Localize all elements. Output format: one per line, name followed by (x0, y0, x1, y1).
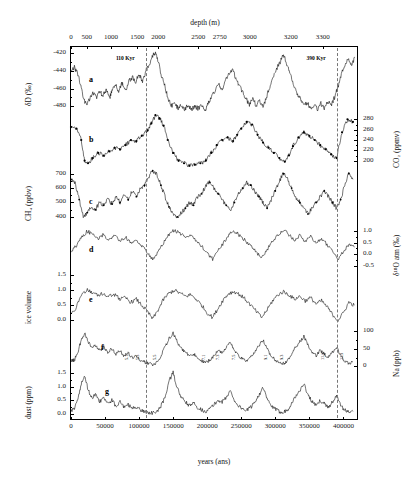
axis-tick (356, 358, 358, 359)
co2-data-point (319, 144, 321, 146)
axis-tick (354, 266, 358, 267)
axis-tick (70, 181, 72, 182)
axis-tick (356, 135, 358, 136)
y-tick-label: 0.0 (57, 316, 66, 323)
y-tick-label: 260 (363, 126, 374, 133)
series-line-d (71, 230, 354, 261)
ch4-data-point (307, 213, 309, 215)
axis-tick (354, 243, 358, 244)
ch4-data-point (258, 196, 260, 198)
axis-tick (70, 80, 72, 81)
ch4-data-point (315, 202, 317, 204)
ch4-data-point (217, 193, 219, 195)
depth-tick-label: 2500 (191, 34, 205, 41)
axis-tick (70, 195, 72, 196)
axis-tick (70, 407, 72, 408)
co2-data-point (308, 135, 310, 137)
axis-title-icevol: ice volume (24, 291, 33, 324)
ch4-data-point (193, 204, 195, 206)
ch4-data-point (299, 202, 301, 204)
axis-tick (275, 417, 276, 420)
year-tick-label: 0 (69, 423, 73, 430)
ch4-data-point (119, 202, 121, 204)
mis-stage-label: 7.1 (201, 355, 206, 360)
y-tick-label: 0.0 (57, 410, 66, 417)
co2-data-point (227, 136, 229, 138)
axis-title-CO2: CO₂ (ppmv) (392, 131, 401, 168)
year-tick-label: 300000 (265, 423, 286, 430)
co2-data-point (297, 136, 299, 138)
co2-data-point (262, 141, 264, 143)
mis-stage-label: 5.1 (124, 355, 129, 360)
axis-title-dust: dust (ppm) (24, 387, 33, 420)
depth-tick-label: 2750 (213, 34, 227, 41)
depth-tick-label: 1000 (104, 34, 118, 41)
ch4-data-point (152, 170, 154, 172)
axis-title-d18Oatm: δ¹⁸O atm (‰) (392, 235, 401, 276)
axis-tick (70, 313, 72, 314)
co2-data-point (172, 152, 174, 154)
y-tick-label: 240 (363, 136, 374, 143)
axis-tick (139, 417, 140, 420)
co2-data-point (75, 128, 77, 130)
co2-data-point (205, 160, 207, 162)
plot-frame (70, 46, 358, 420)
ch4-data-point (234, 202, 236, 204)
age-annotation-1: 110 Kyr (116, 55, 135, 61)
axis-tick (70, 53, 74, 54)
co2-data-point (256, 134, 258, 136)
y-tick-label: 200 (363, 157, 374, 164)
axis-tick (356, 156, 358, 157)
depth-tick-label: 3300 (316, 34, 330, 41)
year-tick-label: 100000 (129, 423, 150, 430)
ch4-data-point (103, 204, 105, 206)
co2-data-point (251, 123, 253, 125)
axis-tick (356, 145, 358, 146)
co2-data-point (267, 147, 269, 149)
mis-stage-label: 11.1 (320, 353, 325, 360)
co2-data-point (167, 139, 169, 141)
mis-stage-label: 7.3 (215, 355, 220, 360)
axis-tick (70, 89, 74, 90)
co2-data-point (236, 134, 238, 136)
co2-data-point (199, 162, 201, 164)
axis-tick (354, 366, 358, 367)
axis-tick (291, 46, 292, 49)
panel-letter-a: a (89, 75, 93, 84)
axis-tick (71, 46, 72, 49)
ch4-data-point (250, 184, 252, 186)
y-tick-label: -460 (53, 85, 66, 92)
y-tick-label: 1.0 (57, 383, 66, 390)
ch4-data-point (168, 206, 170, 208)
co2-data-point (135, 140, 137, 142)
y-tick-label: 400 (56, 213, 67, 220)
axis-tick (71, 417, 72, 420)
co2-data-point (163, 124, 165, 126)
co2-data-point (341, 131, 343, 133)
series-line-b (71, 115, 353, 167)
axis-title-dD: δD (‰) (24, 82, 33, 105)
co2-data-point (103, 154, 105, 156)
co2-data-point (97, 152, 99, 154)
mis-stage-label: 7.5 (231, 355, 236, 360)
series-line-c (71, 171, 353, 218)
axis-tick (70, 414, 74, 415)
co2-data-point (240, 128, 242, 130)
y-tick-label: 0.0 (363, 250, 372, 257)
co2-data-point (177, 160, 179, 162)
marker-line-1 (146, 48, 147, 418)
axis-tick (70, 210, 72, 211)
mis-stage-label: 11.3 (339, 353, 344, 360)
y-tick-label: 0.5 (57, 301, 66, 308)
co2-data-point (183, 162, 185, 164)
axis-tick (241, 417, 242, 420)
y-tick-label: 50 (363, 345, 370, 352)
co2-data-point (84, 160, 86, 162)
depth-tick-label: 2000 (151, 34, 165, 41)
axis-tick (105, 417, 106, 420)
axis-tick (70, 97, 72, 98)
co2-data-point (278, 157, 280, 159)
panel-letter-c: c (89, 197, 93, 206)
co2-data-point (188, 165, 190, 167)
co2-data-point (150, 122, 152, 124)
